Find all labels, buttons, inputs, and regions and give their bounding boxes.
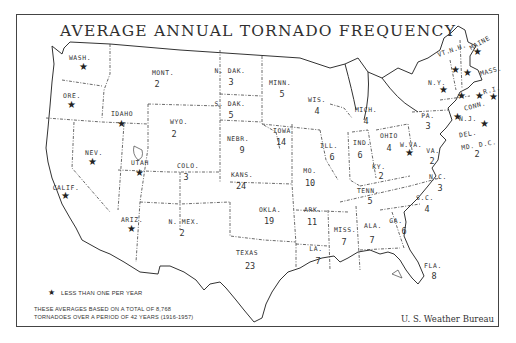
state-label-utah: UTAH — [131, 160, 149, 166]
state-value-ga: 6 — [401, 227, 406, 236]
state-label-mo: MO. — [303, 168, 316, 174]
footnote-line-2: TORNADOES OVER A PERIOD OF 42 YEARS (191… — [34, 314, 193, 322]
state-value-sdak: 5 — [228, 111, 233, 120]
star-icon: ★ — [405, 148, 414, 158]
state-label-nmex: N. MEX. — [168, 219, 199, 225]
state-label-sdak: S. DAK. — [214, 101, 245, 107]
state-value-colo: 3 — [183, 173, 188, 182]
state-label-va: VA. — [426, 148, 439, 154]
state-label-iowa: IOWA — [273, 128, 291, 134]
state-label-sc: S.C. — [416, 195, 434, 201]
state-label-ndak: N. DAK. — [214, 68, 245, 74]
star-icon: ★ — [457, 91, 466, 101]
state-value-fla: 8 — [431, 272, 436, 281]
state-value-nc: 3 — [437, 184, 442, 193]
star-icon: ★ — [88, 157, 97, 167]
state-value-mont: 2 — [154, 80, 159, 89]
state-value-minn: 5 — [279, 90, 284, 99]
state-label-la: LA. — [309, 246, 322, 252]
state-label-okla: OKLA. — [259, 207, 281, 213]
state-label-ind: IND. — [353, 140, 371, 146]
state-label-nj: N.J. — [459, 116, 477, 122]
state-label-ark: ARK. — [304, 207, 322, 213]
footnote-line-1: THESE AVERAGES BASED ON A TOTAL OF 8,768 — [34, 306, 193, 314]
star-icon: ★ — [61, 191, 70, 201]
state-label-idaho: IDAHO — [111, 111, 133, 117]
state-label-pa: PA. — [421, 113, 434, 119]
star-icon: ★ — [453, 112, 462, 122]
us-outline — [46, 26, 482, 322]
state-value-texas: 23 — [245, 262, 255, 271]
state-value-ind: 6 — [357, 151, 362, 160]
state-value-iowa: 14 — [276, 138, 286, 147]
legend-label: LESS THAN ONE PER YEAR — [61, 290, 143, 296]
state-value-okla: 19 — [264, 217, 274, 226]
state-label-ill: ILL. — [320, 143, 338, 149]
state-label-nebr: NEBR. — [227, 136, 249, 142]
star-icon: ★ — [127, 224, 136, 234]
state-value-pa: 3 — [425, 122, 430, 131]
state-value-sc: 4 — [424, 205, 429, 214]
state-value-mich: 4 — [363, 117, 368, 126]
state-value-kans: 24 — [236, 182, 246, 191]
state-value-va: 2 — [429, 157, 434, 166]
state-value-nebr: 9 — [239, 146, 244, 155]
state-value-ohio: 4 — [386, 144, 391, 153]
star-icon: ★ — [480, 119, 489, 129]
star-icon: ★ — [475, 91, 484, 101]
state-value-ill: 6 — [329, 153, 334, 162]
state-value-md-dc: 2 — [474, 150, 479, 159]
star-icon: ★ — [135, 168, 144, 178]
state-label-mont: MONT. — [152, 70, 174, 76]
state-label-fla: FLA. — [424, 263, 442, 269]
star-icon: ★ — [48, 289, 55, 297]
state-label-minn: MINN. — [269, 80, 291, 86]
state-value-wis: 4 — [314, 107, 319, 116]
state-value-la: 7 — [315, 257, 320, 266]
state-label-wis: WIS. — [308, 97, 326, 103]
state-label-mich: MICH. — [355, 107, 377, 113]
state-value-tenn: 5 — [367, 197, 372, 206]
star-icon: ★ — [67, 100, 76, 110]
state-label-kans: KANS. — [231, 172, 253, 178]
state-value-ala: 7 — [369, 236, 374, 245]
state-label-colo: COLO. — [177, 163, 199, 169]
state-label-wyo: WYO. — [170, 119, 188, 125]
state-label-miss: MISS. — [334, 227, 356, 233]
star-icon: ★ — [79, 62, 88, 72]
star-icon: ★ — [451, 65, 460, 75]
state-value-miss: 7 — [341, 238, 346, 247]
state-value-mo: 10 — [305, 179, 315, 188]
state-value-ky: 2 — [378, 172, 383, 181]
state-label-ky: KY. — [372, 164, 385, 170]
state-label-nc: N.C. — [429, 174, 447, 180]
state-value-nmex: 2 — [179, 229, 184, 238]
state-value-ndak: 3 — [228, 78, 233, 87]
star-icon: ★ — [439, 85, 448, 95]
star-icon: ★ — [473, 47, 482, 57]
star-icon: ★ — [117, 119, 126, 129]
footnote: THESE AVERAGES BASED ON A TOTAL OF 8,768… — [34, 306, 193, 321]
state-label-ohio: OHIO — [380, 133, 398, 139]
state-label-tenn: TENN. — [357, 188, 379, 194]
state-label-ala: ALA. — [364, 223, 382, 229]
state-label-texas: TEXAS — [236, 250, 258, 256]
state-label-ga: GA. — [389, 218, 402, 224]
source-credit: U. S. Weather Bureau — [401, 314, 494, 324]
state-value-wyo: 2 — [171, 130, 176, 139]
star-icon: ★ — [489, 92, 498, 102]
state-value-ark: 11 — [307, 218, 317, 227]
star-icon: ★ — [463, 68, 472, 78]
